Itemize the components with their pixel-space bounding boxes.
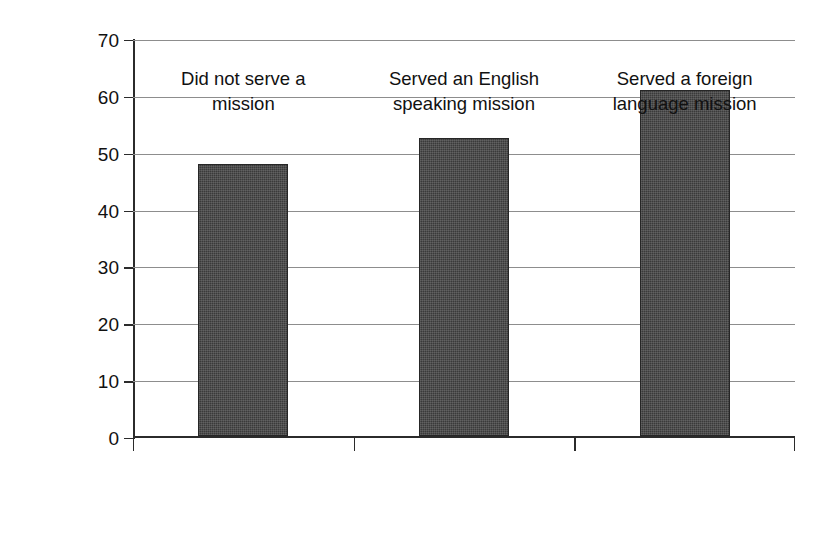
- y-axis-tick-mark: [124, 211, 133, 212]
- bar: [640, 90, 730, 437]
- plot-area: 010203040506070 Did not serve amissionSe…: [133, 40, 795, 438]
- x-axis-category-label-line: Did not serve a: [181, 66, 305, 91]
- y-axis-tick-label: 30: [98, 258, 119, 277]
- bar: [419, 138, 509, 437]
- y-axis-tick-label: 50: [98, 144, 119, 163]
- x-axis-category-label: Served a foreignlanguage mission: [574, 66, 795, 116]
- x-axis-start-tick: [133, 438, 134, 451]
- y-axis-tick-label: 10: [98, 372, 119, 391]
- x-axis-category-separator: [354, 438, 355, 451]
- x-axis-category-label-line: language mission: [613, 91, 757, 116]
- x-axis-category-label: Did not serve amission: [133, 66, 354, 116]
- x-axis-category-label-line: Served an English: [389, 66, 539, 91]
- x-axis-category-label-line: mission: [212, 91, 275, 116]
- y-axis-tick-mark: [124, 438, 133, 439]
- x-axis-end-tick: [794, 438, 795, 451]
- bar-chart-figure: % Who say that immigrants strengthen the…: [0, 0, 831, 534]
- y-axis-tick-mark: [124, 381, 133, 382]
- y-axis-tick-label: 60: [98, 87, 119, 106]
- y-axis-tick-mark: [124, 40, 133, 41]
- y-axis-title: % Who say that immigrants strengthen the…: [18, 0, 70, 88]
- x-axis-category-separator: [574, 438, 575, 451]
- bar: [198, 164, 288, 437]
- gridline: [133, 438, 795, 439]
- x-axis-category-label-line: speaking mission: [393, 91, 535, 116]
- y-axis-tick-mark: [124, 154, 133, 155]
- y-axis-tick-mark: [124, 267, 133, 268]
- y-axis-tick-label: 20: [98, 315, 119, 334]
- y-axis-tick-label: 40: [98, 201, 119, 220]
- y-axis-tick-label: 0: [108, 429, 119, 448]
- y-axis-tick-mark: [124, 97, 133, 98]
- y-axis-tick-mark: [124, 324, 133, 325]
- x-axis-category-label: Served an Englishspeaking mission: [354, 66, 575, 116]
- gridline: [133, 40, 795, 41]
- x-axis-category-label-line: Served a foreign: [617, 66, 753, 91]
- y-axis-tick-label: 70: [98, 31, 119, 50]
